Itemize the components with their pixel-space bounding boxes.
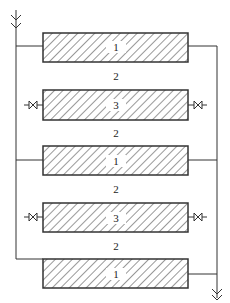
right-manifold-line <box>188 46 217 298</box>
valve-icon <box>24 101 43 109</box>
block-label: 3 <box>106 99 126 111</box>
valve-icon <box>188 213 207 221</box>
block-label: 1 <box>106 268 126 280</box>
left-manifold-line <box>16 10 43 259</box>
block-label: 3 <box>106 212 126 224</box>
gap-label: 2 <box>106 70 126 82</box>
gap-label: 2 <box>106 240 126 252</box>
gap-label: 2 <box>106 127 126 139</box>
valve-icon <box>24 213 43 221</box>
block-label: 1 <box>106 41 126 53</box>
block-label: 1 <box>106 155 126 167</box>
valve-icon <box>188 101 207 109</box>
gap-label: 2 <box>106 183 126 195</box>
